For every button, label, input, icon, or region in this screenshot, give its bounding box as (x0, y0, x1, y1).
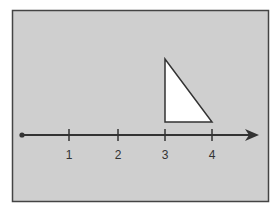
origin-dot (19, 132, 24, 137)
number-line-diagram: 1 2 3 4 (0, 0, 275, 210)
tick-label-1: 1 (66, 148, 73, 162)
tick-label-3: 3 (162, 148, 169, 162)
diagram-frame (13, 11, 269, 202)
tick-label-4: 4 (209, 148, 216, 162)
tick-label-2: 2 (115, 148, 122, 162)
